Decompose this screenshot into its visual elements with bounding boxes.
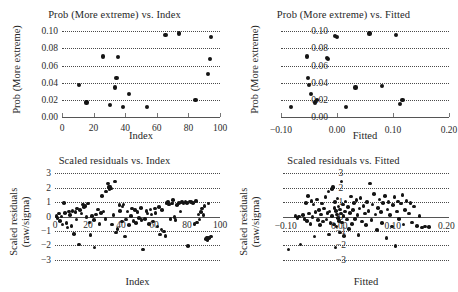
data-point xyxy=(367,31,371,35)
data-point xyxy=(139,206,143,210)
data-point xyxy=(126,210,130,214)
gridline xyxy=(62,83,220,84)
data-point xyxy=(158,233,162,237)
data-point xyxy=(123,235,127,239)
data-point xyxy=(412,205,416,209)
data-point xyxy=(203,204,207,208)
data-point xyxy=(136,210,140,214)
data-point xyxy=(154,211,158,215)
data-point xyxy=(328,210,332,214)
y-tick-label: 0.06 xyxy=(24,61,58,71)
data-point xyxy=(330,214,334,218)
data-point xyxy=(380,221,384,225)
data-point xyxy=(343,210,347,214)
x-tick-mark xyxy=(62,113,63,117)
data-point xyxy=(85,215,89,219)
data-point xyxy=(306,194,310,198)
plot-area: 0.000.020.040.060.080.10020406080100 xyxy=(62,27,220,117)
y-tick-label: 0.06 xyxy=(311,61,328,71)
data-point xyxy=(163,33,167,37)
gridline xyxy=(283,245,449,246)
gridline xyxy=(281,31,449,32)
data-point xyxy=(315,198,319,202)
data-point xyxy=(393,195,397,199)
data-point xyxy=(170,202,174,206)
gridline xyxy=(283,231,449,232)
data-point xyxy=(388,213,392,217)
data-point xyxy=(380,84,384,88)
plot-area: −3−2−10123020406080100 xyxy=(55,172,220,264)
y-tick-label: −1 xyxy=(17,226,51,236)
y-axis-label-line2: (raw/sigma) xyxy=(250,172,262,272)
data-point xyxy=(387,200,391,204)
data-point xyxy=(403,208,407,212)
y-tick-label: 0.04 xyxy=(311,78,328,88)
data-point xyxy=(116,55,120,59)
data-point xyxy=(134,221,138,225)
data-point xyxy=(355,198,359,202)
y-tick-label: −2 xyxy=(336,240,346,250)
data-point xyxy=(344,105,348,109)
data-point xyxy=(127,223,131,227)
data-point xyxy=(320,202,324,206)
data-point xyxy=(316,218,320,222)
plot-area: −3−2−10123−0.100.000.100.20 xyxy=(283,172,449,264)
data-point xyxy=(365,200,369,204)
data-point xyxy=(143,217,147,221)
data-point xyxy=(162,230,166,234)
data-point xyxy=(70,224,74,228)
data-point xyxy=(351,208,355,212)
y-tick-label: 3 xyxy=(338,168,343,178)
data-point xyxy=(353,85,357,89)
data-point xyxy=(98,222,102,226)
data-point xyxy=(400,98,404,102)
data-point xyxy=(340,221,344,225)
data-point xyxy=(60,215,64,219)
data-point xyxy=(358,207,362,211)
data-point xyxy=(113,85,117,89)
data-point xyxy=(333,200,337,204)
gridline xyxy=(55,173,220,174)
gridline xyxy=(62,31,220,32)
data-point xyxy=(427,225,431,229)
y-tick-label: −3 xyxy=(17,255,51,265)
axis-baseline xyxy=(281,117,449,118)
data-point xyxy=(177,31,181,35)
y-tick-label: 0.08 xyxy=(311,43,328,53)
data-point xyxy=(146,212,150,216)
data-point xyxy=(356,213,360,217)
data-point xyxy=(104,217,108,221)
x-tick-mark xyxy=(449,113,450,117)
data-point xyxy=(121,105,125,109)
x-axis-label: Index xyxy=(55,276,220,287)
data-point xyxy=(84,100,88,104)
x-tick-label: −0.10 xyxy=(275,221,297,231)
y-tick-label: 0.10 xyxy=(24,26,58,36)
x-axis-label: Index xyxy=(62,130,220,141)
y-axis-label: Prob (More extreme) xyxy=(249,15,260,125)
data-point xyxy=(102,210,106,214)
data-point xyxy=(353,217,357,221)
y-tick-label: 0 xyxy=(17,212,51,222)
data-point xyxy=(124,218,128,222)
x-tick-label: 100 xyxy=(213,220,227,230)
data-point xyxy=(174,218,178,222)
y-tick-label: 0.02 xyxy=(24,95,58,105)
data-point xyxy=(63,211,67,215)
data-point xyxy=(386,208,390,212)
data-point xyxy=(318,223,322,227)
data-point xyxy=(331,185,335,189)
axis-baseline xyxy=(62,117,220,118)
data-point xyxy=(92,218,96,222)
data-point xyxy=(93,246,97,250)
data-point xyxy=(326,57,330,61)
data-point xyxy=(160,208,164,212)
data-point xyxy=(398,102,402,106)
data-point xyxy=(66,226,70,230)
data-point xyxy=(62,201,66,205)
plot-area: 0.000.020.040.060.080.10−0.100.000.100.2… xyxy=(281,27,449,117)
data-point xyxy=(350,222,354,226)
data-point xyxy=(289,105,293,109)
data-point xyxy=(109,187,113,191)
gridline xyxy=(55,260,220,261)
